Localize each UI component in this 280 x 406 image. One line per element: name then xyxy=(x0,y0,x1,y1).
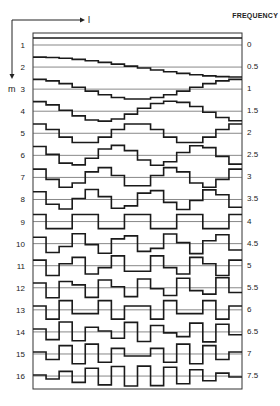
row-index-label: 10 xyxy=(16,240,25,249)
waveform-row: 83.5 xyxy=(21,190,259,210)
waveform-row: 52 xyxy=(21,124,252,142)
frequency-label: 3.5 xyxy=(247,194,259,203)
waveform-row: 136 xyxy=(16,301,252,319)
row-index-label: 13 xyxy=(16,306,25,315)
waveform-row: 10 xyxy=(21,38,252,50)
row-index-label: 6 xyxy=(21,151,26,160)
row-index-label: 2 xyxy=(21,63,26,72)
frequency-label: 3 xyxy=(247,172,252,181)
frequency-label: 4 xyxy=(247,217,252,226)
row-index-label: 7 xyxy=(21,173,26,182)
waveform-rows: 1020.53141.55262.57383.594104.5115125.51… xyxy=(16,38,259,386)
frequency-label: 7 xyxy=(247,349,252,358)
waveform-row: 146.5 xyxy=(16,322,259,342)
frequency-label: 1 xyxy=(247,84,252,93)
vertical-axis-label: m xyxy=(8,84,16,94)
frequency-label: 0 xyxy=(247,40,252,49)
frequency-label: 7.5 xyxy=(247,371,259,380)
row-index-label: 15 xyxy=(16,350,25,359)
waveform-row: 73 xyxy=(21,168,252,188)
frequency-header: FREQUENCY xyxy=(232,12,278,20)
frequency-label: 1.5 xyxy=(247,106,259,115)
frequency-label: 4.5 xyxy=(247,239,259,248)
arrow-down-icon xyxy=(10,74,15,79)
arrow-right-icon xyxy=(80,18,85,23)
frequency-label: 0.5 xyxy=(247,62,259,71)
waveform-row: 62.5 xyxy=(21,145,259,165)
frequency-label: 6 xyxy=(247,305,252,314)
row-index-label: 8 xyxy=(21,195,26,204)
row-index-label: 1 xyxy=(21,41,26,50)
waveform-row: 41.5 xyxy=(21,101,259,121)
waveform-row: 167.5 xyxy=(16,366,259,386)
waveform-row: 31 xyxy=(21,79,252,99)
row-index-label: 5 xyxy=(21,129,26,138)
axis-arrows: l m xyxy=(8,15,90,94)
frequency-label: 2.5 xyxy=(247,150,259,159)
horizontal-axis-label: l xyxy=(88,15,90,25)
waveform-row: 157 xyxy=(16,344,252,364)
dct-basis-diagram: l m FREQUENCY 1020.53141.55262.57383.594… xyxy=(0,0,280,406)
row-index-label: 3 xyxy=(21,85,26,94)
waveform-row: 104.5 xyxy=(16,234,259,254)
frequency-label: 6.5 xyxy=(247,327,259,336)
row-index-label: 14 xyxy=(16,328,25,337)
row-index-label: 16 xyxy=(16,372,25,381)
waveform-row: 20.5 xyxy=(21,57,259,77)
row-index-label: 4 xyxy=(21,107,26,116)
frequency-label: 5 xyxy=(247,261,252,270)
waveform-row: 125.5 xyxy=(16,278,259,298)
row-index-label: 12 xyxy=(16,284,25,293)
frequency-label: 2 xyxy=(247,128,252,137)
waveform-row: 94 xyxy=(21,214,252,228)
row-index-label: 11 xyxy=(17,262,26,271)
frequency-label: 5.5 xyxy=(247,283,259,292)
waveform-row: 115 xyxy=(17,256,252,276)
row-index-label: 9 xyxy=(21,218,26,227)
